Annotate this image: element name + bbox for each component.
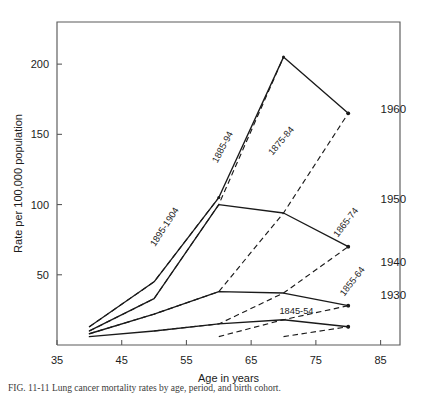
y-tick-label: 200 (31, 58, 49, 70)
cohort-label-1885-94: 1885-94 (210, 130, 235, 165)
x-tick-label: 35 (51, 354, 63, 366)
cohort-line-1865-74 (154, 247, 348, 331)
series-labels-group: 19601950194019301895-19041885-941875-841… (148, 103, 406, 316)
y-axis-title: Rate per 100,000 population (12, 114, 24, 253)
cohort-label-1895-1904: 1895-1904 (148, 205, 181, 248)
y-tick-label: 150 (31, 128, 49, 140)
period-label-1960: 1960 (381, 103, 407, 115)
x-tick-label: 75 (310, 354, 322, 366)
series-endpoint (347, 304, 350, 307)
period-label-1950: 1950 (381, 193, 407, 205)
y-tick-label: 100 (31, 199, 49, 211)
series-endpoint (282, 56, 285, 59)
cohort-line-1885-94 (89, 57, 283, 331)
series-endpoint (347, 112, 350, 115)
cohort-line-1895-1904 (89, 198, 218, 327)
period-label-1930: 1930 (381, 289, 407, 301)
chart-canvas: 50100150200354555657585 1960195019401930… (0, 0, 424, 393)
period-line-1960 (89, 57, 348, 327)
axis-tick-labels: 50100150200354555657585 (31, 58, 387, 366)
x-tick-label: 55 (180, 354, 192, 366)
y-tick-label: 50 (37, 269, 49, 281)
series-endpoint (347, 325, 350, 328)
x-tick-label: 65 (245, 354, 257, 366)
cohort-label-1875-84: 1875-84 (266, 125, 296, 158)
cohort-label-1845-54: 1845-54 (279, 306, 313, 316)
series-endpoint (217, 196, 220, 199)
data-series-group (89, 56, 350, 337)
series-endpoint (347, 245, 350, 248)
cohort-label-1855-64: 1855-64 (338, 265, 367, 298)
x-tick-label: 45 (116, 354, 128, 366)
figure-container: 50100150200354555657585 1960195019401930… (0, 0, 424, 393)
period-label-1940: 1940 (381, 256, 407, 268)
figure-caption: FIG. 11-11 Lung cancer mortality rates b… (8, 383, 418, 393)
cohort-label-1865-74: 1865-74 (331, 206, 360, 239)
x-tick-label: 85 (374, 354, 386, 366)
cohort-line-1845-54 (284, 327, 349, 337)
